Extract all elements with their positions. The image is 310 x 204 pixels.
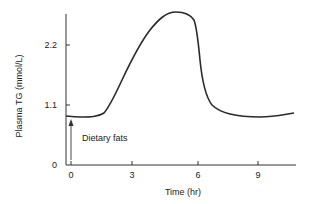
x-ticks: 0 3 6 9 <box>68 161 260 180</box>
annotation-label: Dietary fats <box>82 133 128 143</box>
x-tick-label: 6 <box>195 170 200 180</box>
plasma-tg-line <box>66 12 294 117</box>
x-axis-label: Time (hr) <box>165 187 201 197</box>
y-tick-label: 1.1 <box>44 100 57 110</box>
y-axis-label: Plasma TG (mmol/L) <box>14 55 24 138</box>
x-tick-label: 3 <box>129 170 134 180</box>
y-tick-label: 0 <box>52 160 57 170</box>
arrow-up-icon <box>69 119 74 126</box>
dietary-fats-annotation: Dietary fats <box>69 119 129 160</box>
x-tick-label: 0 <box>68 170 73 180</box>
y-tick-label: 2.2 <box>44 40 57 50</box>
x-tick-label: 9 <box>255 170 260 180</box>
plasma-tg-chart: 2.2 1.1 0 0 3 6 9 Time (hr) Plasma TG (m… <box>0 0 310 204</box>
